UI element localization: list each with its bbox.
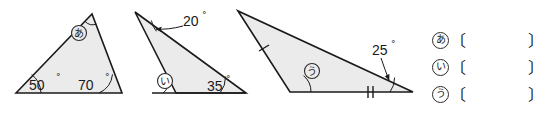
answer-row-i[interactable]: い 〔 〕 [432,57,550,78]
triangle-1: 50 ° 70 ° あ [16,14,122,93]
angle-label-35-unit: ° [226,74,231,84]
answer-bracket-close-a: 〕 [528,33,544,49]
triangle-2: 20 ° 35 ° い [135,10,246,94]
answer-row-u[interactable]: う 〔 〕 [432,84,550,105]
answer-bracket-open-a: 〔 [450,33,466,49]
angle-20-leader [156,26,183,29]
answer-bracket-open-u: 〔 [450,87,466,103]
angle-label-70: 70 [78,77,94,93]
unknown-marker-i-label: い [160,76,170,87]
answer-input-i[interactable] [466,67,528,68]
answer-marker-u: う [432,86,449,103]
triangle-3: 25 ° う [238,11,413,98]
unknown-marker-a-label: あ [74,28,84,39]
answer-list: あ 〔 〕 い 〔 〕 う 〔 〕 [432,30,550,105]
angle-label-50: 50 [29,77,45,93]
answer-row-a[interactable]: あ 〔 〕 [432,30,550,51]
angle-label-20-unit: ° [202,10,207,20]
worksheet-canvas: 50 ° 70 ° あ 20 ° 35 ° い [0,0,553,116]
angle-25-leader [381,58,389,80]
angle-label-25: 25 [372,42,388,58]
angle-label-35: 35 [207,78,223,94]
answer-input-u[interactable] [466,94,528,95]
answer-bracket-open-i: 〔 [450,60,466,76]
answer-bracket-close-u: 〕 [528,87,544,103]
unknown-marker-u-label: う [307,66,317,77]
answer-marker-a: あ [432,32,449,49]
angle-label-50-unit: ° [56,72,61,82]
angle-label-70-unit: ° [105,72,110,82]
angle-label-25-unit: ° [391,39,396,49]
answer-marker-i: い [432,59,449,76]
angle-label-20: 20 [183,13,199,29]
answer-input-a[interactable] [466,40,528,41]
answer-bracket-close-i: 〕 [528,60,544,76]
